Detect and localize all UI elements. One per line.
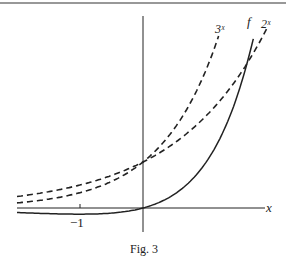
curve-f	[17, 39, 253, 214]
curve-2-power-x	[17, 27, 268, 197]
label-f: f	[247, 14, 253, 29]
label-3x: 3ˣ	[214, 22, 225, 36]
curve-3-power-x	[17, 36, 219, 203]
label-2x: 2ˣ	[261, 17, 271, 31]
figure-canvas: 3ˣ f 2ˣ x −1 Fig. 3	[0, 0, 286, 267]
x-tick-label-minus-1: −1	[70, 215, 84, 230]
figure-caption: Fig. 3	[130, 242, 158, 256]
x-axis-label: x	[265, 200, 272, 215]
